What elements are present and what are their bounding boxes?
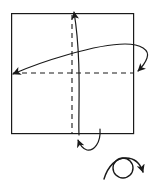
rotate-arc-icon [104, 158, 143, 179]
square-sheet [12, 14, 134, 134]
origami-fold-diagram [0, 0, 155, 183]
diagram-canvas [0, 0, 155, 183]
